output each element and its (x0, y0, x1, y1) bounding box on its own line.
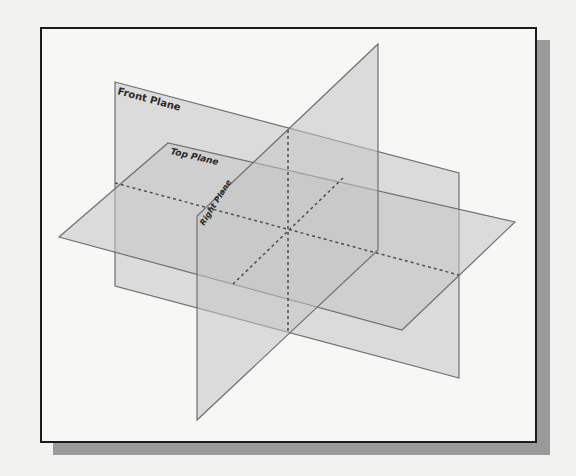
datum-planes-diagram: Front Plane Top Plane Right Plane (0, 0, 576, 476)
